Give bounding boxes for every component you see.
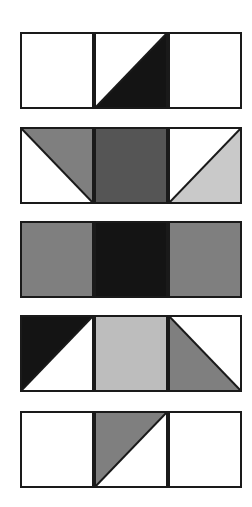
tile-5-1 bbox=[20, 411, 94, 488]
tile-strip-2 bbox=[20, 127, 242, 204]
tile-strip-graphic bbox=[20, 32, 242, 109]
tile-4-2 bbox=[94, 315, 168, 392]
tile-1-2 bbox=[94, 32, 168, 109]
tile-strip-4 bbox=[20, 315, 242, 392]
tile-strip-1 bbox=[20, 32, 242, 109]
tile-strip-5 bbox=[20, 411, 242, 488]
tile-3-2 bbox=[94, 221, 168, 298]
tile-2-2 bbox=[94, 127, 168, 204]
tile-strip-graphic bbox=[20, 221, 242, 298]
tile-3-3 bbox=[168, 221, 242, 298]
tile-4-3 bbox=[168, 315, 242, 392]
tile-pattern-diagram bbox=[0, 0, 252, 507]
tile-3-1 bbox=[20, 221, 94, 298]
tile-strip-3 bbox=[20, 221, 242, 298]
tile-5-3 bbox=[168, 411, 242, 488]
tile-1-3 bbox=[168, 32, 242, 109]
tile-2-1 bbox=[20, 127, 94, 204]
tile-strip-graphic bbox=[20, 315, 242, 392]
tile-2-3 bbox=[168, 127, 242, 204]
tile-strip-graphic bbox=[20, 411, 242, 488]
tile-strip-graphic bbox=[20, 127, 242, 204]
tile-4-1 bbox=[20, 315, 94, 392]
tile-1-1 bbox=[20, 32, 94, 109]
tile-5-2 bbox=[94, 411, 168, 488]
